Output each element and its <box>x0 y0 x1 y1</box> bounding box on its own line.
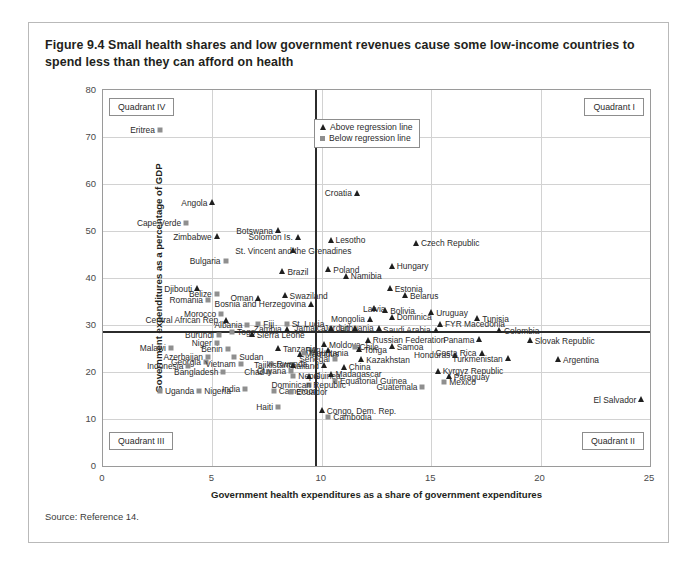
data-point-label: Hungary <box>397 262 429 271</box>
data-point-label: Uganda <box>165 386 194 395</box>
y-axis-tick-label: 80 <box>85 84 96 95</box>
triangle-marker-icon <box>505 355 511 361</box>
quadrant-label-iii: Quadrant III <box>109 432 173 450</box>
data-point-label: Eritrea <box>130 125 155 134</box>
triangle-marker-icon <box>356 346 362 352</box>
triangle-marker-icon <box>387 285 393 291</box>
data-point-label: Guyana <box>257 366 286 375</box>
square-marker-icon <box>157 127 162 132</box>
x-axis-tick-label: 5 <box>209 472 214 483</box>
x-axis-tick-label: 20 <box>534 472 545 483</box>
x-axis-tick-label: 25 <box>644 472 655 483</box>
quadrant-label-iv: Quadrant IV <box>109 98 174 116</box>
y-axis-tick-label: 70 <box>85 131 96 142</box>
data-point-label: India <box>222 384 240 393</box>
data-point-label: Uruguay <box>436 308 468 317</box>
triangle-marker-icon <box>352 325 358 331</box>
figure-title: Figure 9.4 Small health shares and low g… <box>45 37 653 71</box>
square-marker-icon <box>168 346 173 351</box>
square-marker-icon <box>420 385 425 390</box>
data-point-label: Saudi Arabia <box>383 326 431 335</box>
square-marker-icon <box>223 259 228 264</box>
legend-item-below: Below regression line <box>320 133 413 144</box>
square-marker-icon <box>326 414 331 419</box>
data-point-label: Mexico <box>449 378 476 387</box>
x-axis-tick-label: 15 <box>425 472 436 483</box>
data-point-label: St. Vincent and the Grenadines <box>235 246 351 255</box>
y-axis-tick-label: 40 <box>85 272 96 283</box>
data-point-label: Solomon Is. <box>248 233 292 242</box>
square-marker-icon <box>276 404 281 409</box>
triangle-marker-icon <box>214 233 220 239</box>
data-point-label: Sierra Leone <box>257 330 305 339</box>
data-point-label: Panama <box>443 335 474 344</box>
y-axis-tick-label: 50 <box>85 225 96 236</box>
triangle-marker-icon <box>328 325 334 331</box>
data-point-label: Kazakhstan <box>366 355 410 364</box>
data-point-label: Benin <box>201 344 222 353</box>
triangle-marker-icon <box>328 371 334 377</box>
triangle-marker-icon <box>319 407 325 413</box>
triangle-marker-icon <box>496 327 502 333</box>
figure-card: Figure 9.4 Small health shares and low g… <box>28 22 669 543</box>
data-point-label: Argentina <box>563 355 599 364</box>
triangle-marker-icon <box>306 373 312 379</box>
triangle-marker-icon <box>209 199 215 205</box>
square-marker-icon <box>320 136 325 141</box>
data-point-label: Brazil <box>287 267 308 276</box>
y-axis-tick-label: 0 <box>91 460 96 471</box>
square-marker-icon <box>221 370 226 375</box>
triangle-marker-icon <box>382 307 388 313</box>
triangle-marker-icon <box>433 327 439 333</box>
square-marker-icon <box>238 361 243 366</box>
triangle-marker-icon <box>476 336 482 342</box>
triangle-marker-icon <box>402 292 408 298</box>
data-point-label: Dominica <box>397 313 432 322</box>
triangle-marker-icon <box>555 356 561 362</box>
data-point-label: Djibouti <box>164 284 192 293</box>
square-marker-icon <box>332 356 337 361</box>
data-point-label: Guatemala <box>376 383 417 392</box>
square-marker-icon <box>184 220 189 225</box>
square-marker-icon <box>289 368 294 373</box>
data-point-label: Romania <box>169 295 203 304</box>
legend-item-above: Above regression line <box>320 122 413 133</box>
triangle-marker-icon <box>282 292 288 298</box>
triangle-marker-icon <box>249 331 255 337</box>
triangle-marker-icon <box>343 273 349 279</box>
data-point-label: Lesotho <box>336 236 366 245</box>
square-marker-icon <box>197 388 202 393</box>
square-marker-icon <box>230 329 235 334</box>
gridline-horizontal <box>103 184 650 185</box>
gridline-vertical <box>650 90 651 466</box>
plot-area: EritreaAngolaCape VerdeZimbabweBotswanaS… <box>102 89 651 467</box>
y-axis-tick-label: 10 <box>85 413 96 424</box>
legend-label-above: Above regression line <box>330 122 413 133</box>
data-point-label: Bosnia and Herzegovina <box>215 300 306 309</box>
data-point-label: Turkmenistan <box>452 354 502 363</box>
triangle-marker-icon <box>413 240 419 246</box>
triangle-marker-icon <box>527 337 533 343</box>
y-axis-tick-label: 20 <box>85 366 96 377</box>
legend-label-below: Below regression line <box>329 133 411 144</box>
triangle-marker-icon <box>328 237 334 243</box>
square-marker-icon <box>216 332 221 337</box>
chart-legend: Above regression line Below regression l… <box>314 119 420 148</box>
triangle-marker-icon <box>325 266 331 272</box>
triangle-marker-icon <box>389 314 395 320</box>
data-point-label: Slovak Republic <box>535 336 595 345</box>
data-point-label: Tonga <box>364 345 387 354</box>
triangle-marker-icon <box>279 268 285 274</box>
square-marker-icon <box>214 292 219 297</box>
square-marker-icon <box>206 297 211 302</box>
triangle-marker-icon <box>437 321 443 327</box>
plot-container: EritreaAngolaCape VerdeZimbabweBotswanaS… <box>102 89 651 467</box>
triangle-marker-icon <box>367 316 373 322</box>
x-axis-tick-label: 10 <box>316 472 327 483</box>
data-point-label: Cambodia <box>333 412 371 421</box>
data-point-label: Bangladesh <box>174 368 218 377</box>
triangle-marker-icon <box>308 301 314 307</box>
x-axis-label: Government health expenditures as a shar… <box>102 489 651 500</box>
data-point-label: Central African Rep. <box>146 316 221 325</box>
quadrant-label-ii: Quadrant II <box>582 432 644 450</box>
